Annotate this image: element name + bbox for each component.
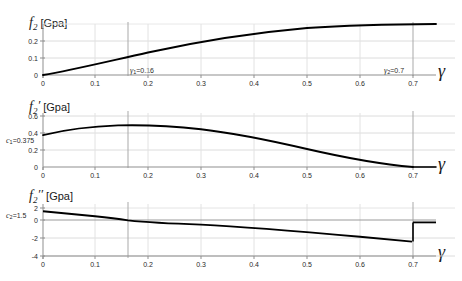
figure-container: f2[Gpa] γ 0.2 0.1 0 0 0.1 0.2 0.3 0.4 0.…	[0, 0, 462, 281]
curve-f2-double-prime	[43, 211, 412, 241]
chart-panel-f2-prime: f2′[Gpa] γ 0.6 0.4 0.2 0 0 0.1 0.2 0.3 0…	[0, 93, 462, 188]
curve-f2	[43, 24, 436, 75]
plot-area-f2-prime	[0, 93, 462, 188]
plot-area-f2-double-prime	[0, 186, 462, 281]
chart-panel-f2: f2[Gpa] γ 0.2 0.1 0 0 0.1 0.2 0.3 0.4 0.…	[0, 0, 462, 95]
curve-f2-prime	[43, 125, 413, 167]
plot-area-f2	[0, 0, 462, 95]
chart-panel-f2-double-prime: f2′′[Gpa] γ 2 0 -2 -4 0 0.1 0.2 0.3 0.4 …	[0, 186, 462, 281]
